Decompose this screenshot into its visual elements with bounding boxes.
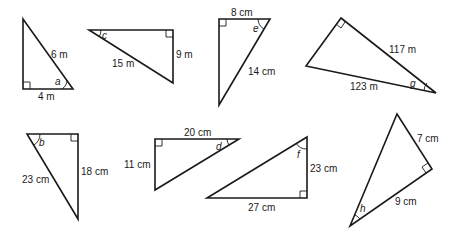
triangle-b: 23 cm 18 cm b	[22, 134, 108, 219]
angle-label: a	[55, 76, 61, 87]
side-label: 23 cm	[22, 174, 49, 185]
side-label: 117 m	[389, 44, 416, 55]
triangle-d-outline	[155, 139, 239, 190]
angle-arc	[99, 30, 101, 37]
angle-label: c	[102, 30, 107, 41]
angle-label: g	[410, 78, 416, 89]
side-label: 14 cm	[248, 66, 275, 77]
triangle-d: 20 cm 11 cm d	[124, 127, 239, 190]
side-label: 8 cm	[231, 7, 253, 18]
right-angle-marker	[23, 82, 30, 89]
side-label: 15 m	[112, 58, 134, 69]
side-label: 23 cm	[310, 163, 337, 174]
angle-label: d	[216, 141, 222, 152]
triangle-e: 8 cm 14 cm e	[219, 7, 275, 105]
triangle-g: 117 m 123 m g	[306, 18, 436, 93]
triangle-f: 23 cm 27 cm f	[207, 137, 337, 213]
angle-label: f	[297, 149, 301, 160]
triangles-diagram: 6 m 4 m a 15 m 9 m c 8 cm 14 cm e 117 m …	[0, 0, 454, 239]
side-label: 11 cm	[124, 159, 151, 170]
angle-arc	[258, 19, 264, 29]
side-label: 6 m	[51, 49, 68, 60]
side-label: 20 cm	[184, 127, 211, 138]
right-angle-marker	[219, 19, 226, 26]
side-label: 7 cm	[417, 133, 439, 144]
right-angle-marker	[166, 30, 173, 37]
triangle-a: 6 m 4 m a	[23, 19, 73, 102]
side-label: 123 m	[350, 81, 378, 92]
triangle-f-outline	[207, 137, 307, 198]
angle-arc	[227, 139, 229, 145]
angle-label: h	[360, 203, 366, 214]
right-angle-marker	[155, 139, 162, 146]
triangle-c: 15 m 9 m c	[89, 30, 193, 83]
side-label: 27 cm	[248, 202, 275, 213]
side-label: 18 cm	[81, 166, 108, 177]
angle-label: e	[253, 23, 259, 34]
side-label: 9 m	[176, 49, 193, 60]
side-label: 4 m	[38, 91, 55, 102]
triangle-e-outline	[219, 19, 270, 105]
side-label: 9 cm	[395, 196, 417, 207]
right-angle-marker	[300, 191, 307, 198]
angle-arc	[62, 80, 67, 89]
triangle-h: 7 cm 9 cm h	[350, 114, 439, 226]
right-angle-marker	[71, 134, 78, 141]
angle-arc	[355, 215, 360, 219]
angle-label: b	[39, 137, 45, 148]
